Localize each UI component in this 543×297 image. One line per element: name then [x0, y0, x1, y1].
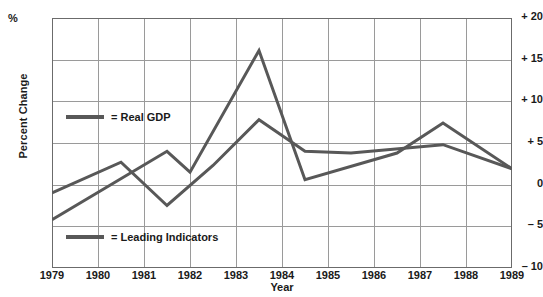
chart-root: Percent Change Year % +20+15+10+50–5–10 … [0, 0, 543, 297]
x-tick-label: 1989 [482, 269, 542, 281]
legend-item-leading-indicators: = Leading Indicators [66, 231, 218, 243]
legend-item-real-gdp: = Real GDP [66, 111, 171, 123]
legend-label-leading-indicators: = Leading Indicators [111, 231, 218, 243]
x-axis-title: Year [52, 281, 512, 293]
legend-swatch-real-gdp [66, 115, 104, 119]
legend-swatch-leading-indicators [66, 235, 104, 239]
legend-label-real-gdp: = Real GDP [111, 111, 171, 123]
y-axis-title: Percent Change [17, 46, 29, 186]
y-axis-unit-symbol: % [8, 12, 18, 24]
